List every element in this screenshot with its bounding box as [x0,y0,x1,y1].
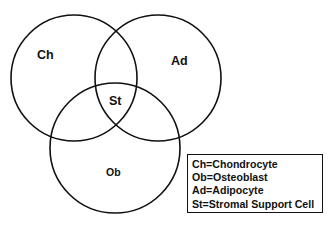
legend-item-osteoblast: Ob=Osteoblast [192,171,322,184]
label-ob: Ob [106,166,121,178]
circle-chondrocyte [11,15,137,141]
legend-item-stromal: St=Stromal Support Cell [192,198,322,211]
circle-adipocyte [95,15,221,141]
legend-item-chondrocyte: Ch=Chondrocyte [192,158,322,171]
label-ad: Ad [171,54,188,68]
label-ch: Ch [37,48,54,62]
legend-box: Ch=Chondrocyte Ob=Osteoblast Ad=Adipocyt… [187,154,323,213]
legend-item-adipocyte: Ad=Adipocyte [192,184,322,197]
label-st: St [109,94,122,108]
